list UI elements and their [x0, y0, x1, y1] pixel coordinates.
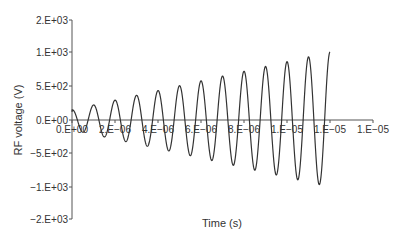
y-tick-label: −1.E+03 [30, 182, 68, 193]
y-tick-label: −2.E+03 [30, 214, 68, 225]
x-tick-label: 0.E+00 [56, 124, 88, 135]
y-tick-label: 1.E+03 [36, 47, 68, 58]
x-tick-label: 4.E−06 [142, 124, 174, 135]
x-tick-label: 6.E−06 [185, 124, 217, 135]
rf-voltage-line [72, 52, 330, 185]
x-tick-label: 1.E−05 [357, 124, 389, 135]
x-axis: 0.E+002.E−064.E−066.E−068.E−061.E−051.E−… [56, 120, 389, 135]
y-tick-label: 5.E+02 [36, 81, 68, 92]
x-tick-label: 2.E−06 [99, 124, 131, 135]
y-axis-title: RF voltage (V) [12, 85, 24, 156]
x-axis-title: Time (s) [202, 217, 242, 229]
x-tick-label: 8.E−06 [228, 124, 260, 135]
x-tick-label: 1.E−05 [314, 124, 346, 135]
x-tick-label: 1.E−05 [271, 124, 303, 135]
y-tick-label: 2.E+03 [36, 15, 68, 26]
y-axis: 2.E+031.E+035.E+020.E+00−5.E+02−1.E+03−2… [30, 15, 72, 225]
rf-voltage-chart: 2.E+031.E+035.E+020.E+00−5.E+02−1.E+03−2… [0, 0, 402, 244]
y-tick-label: −5.E+02 [30, 148, 68, 159]
